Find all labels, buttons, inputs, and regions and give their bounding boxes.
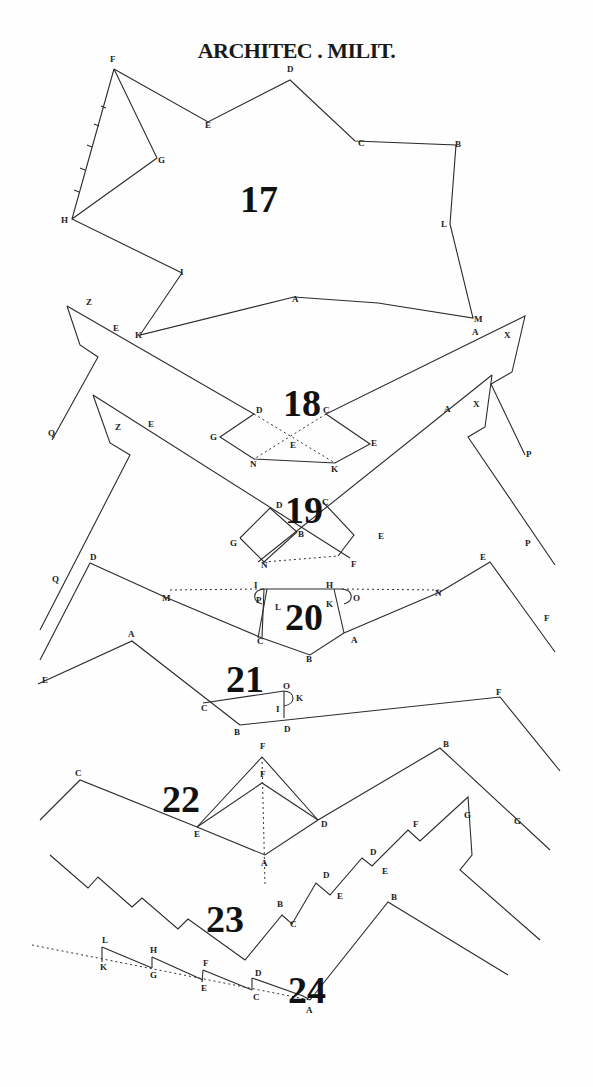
point-label: C: [201, 703, 208, 713]
outline-line: [72, 69, 157, 219]
point-label: H: [150, 945, 157, 955]
point-label: G: [514, 816, 521, 826]
point-label: I: [180, 267, 184, 277]
point-label: Q: [48, 428, 55, 438]
point-label: C: [290, 919, 297, 929]
point-label: G: [158, 155, 165, 165]
point-label: P: [525, 538, 531, 548]
point-label: N: [261, 560, 268, 570]
point-label: N: [250, 459, 257, 469]
point-label: D: [284, 724, 291, 734]
outline-line: [102, 947, 152, 968]
point-label: K: [296, 693, 303, 703]
point-label: D: [90, 552, 97, 562]
point-label: D: [276, 500, 283, 510]
point-label: K: [100, 962, 107, 972]
point-label: E: [378, 531, 384, 541]
outline-line: [310, 902, 508, 1000]
outline-line: [334, 589, 344, 633]
figure-number: 23: [206, 898, 244, 940]
point-label: I: [254, 580, 258, 590]
point-label: F: [544, 613, 550, 623]
outline-line: [52, 306, 98, 440]
figure-number: 24: [288, 969, 326, 1011]
construction-line: [342, 589, 440, 590]
fortification-diagrams: FDECBGLHIAKM17ZEDCGEENKAXQAXP18ZEDCGBENF…: [0, 0, 593, 1087]
outline-line: [240, 697, 560, 771]
engraved-plate: ARCHITEC . MILIT. FDECBGLHIAKM17ZEDCGEEN…: [0, 0, 593, 1087]
point-label: L: [275, 602, 281, 612]
point-label: E: [113, 323, 119, 333]
figure-number: 22: [162, 778, 200, 820]
point-label: A: [351, 635, 358, 645]
construction-line: [264, 556, 338, 562]
point-label: O: [283, 681, 290, 691]
point-label: Q: [52, 574, 59, 584]
point-label: B: [443, 739, 449, 749]
point-label: D: [323, 870, 330, 880]
point-label: P: [526, 449, 532, 459]
point-label: Z: [86, 297, 92, 307]
point-label: L: [441, 219, 447, 229]
point-label: F: [110, 54, 116, 64]
point-label: F: [351, 559, 357, 569]
point-label: X: [473, 399, 480, 409]
outline-line: [197, 783, 318, 827]
point-label: E: [148, 419, 154, 429]
point-label: K: [331, 464, 338, 474]
figure-20: DMIHPLKOCABNEFE20: [40, 552, 555, 685]
point-label: D: [287, 64, 294, 74]
point-label: H: [326, 580, 333, 590]
point-label: I: [276, 704, 280, 714]
outline-line: [50, 797, 540, 960]
outline-line: [40, 563, 90, 660]
outline-line: [40, 748, 550, 855]
outline-line: [152, 957, 203, 980]
outline-line: [323, 502, 354, 556]
point-label: G: [150, 970, 157, 980]
point-label: D: [321, 819, 328, 829]
point-label: O: [353, 593, 360, 603]
scale-ticks: [74, 106, 106, 192]
point-label: F: [203, 958, 209, 968]
point-label: F: [496, 687, 502, 697]
point-label: G: [230, 538, 237, 548]
point-label: K: [326, 599, 333, 609]
point-label: E: [337, 891, 343, 901]
point-label: L: [102, 935, 108, 945]
point-label: C: [75, 768, 82, 778]
point-label: E: [205, 120, 211, 130]
point-label: C: [257, 636, 264, 646]
point-label: G: [210, 432, 217, 442]
point-label: K: [135, 330, 142, 340]
construction-line: [32, 945, 310, 1000]
figure-number: 18: [283, 382, 321, 424]
point-label: D: [255, 968, 262, 978]
figure-number: 21: [226, 658, 264, 700]
figure-number: 20: [285, 596, 323, 638]
figure-21: ACOKIBDF21: [38, 629, 560, 771]
figure-17: FDECBGLHIAKM17: [61, 54, 483, 340]
point-label: B: [455, 139, 461, 149]
point-label: C: [323, 405, 330, 415]
point-label: F: [260, 769, 266, 779]
figure-22: CFFEDABG22: [40, 739, 550, 885]
point-label: A: [261, 858, 268, 868]
point-label: E: [371, 438, 377, 448]
point-label: E: [194, 829, 200, 839]
point-label: M: [474, 314, 483, 324]
point-label: E: [480, 552, 486, 562]
point-label: D: [256, 405, 263, 415]
point-label: C: [253, 992, 260, 1002]
figure-24: LKHGFEDCAB24: [32, 892, 508, 1015]
point-label: C: [358, 138, 365, 148]
figure-23: BCDEDEFG23: [50, 797, 540, 960]
point-label: E: [290, 440, 296, 450]
figure-number: 17: [240, 178, 278, 220]
point-label: B: [234, 727, 240, 737]
point-label: Z: [115, 422, 121, 432]
point-label: B: [306, 654, 312, 664]
point-label: G: [464, 810, 471, 820]
outline-line: [38, 641, 240, 725]
outline-line: [468, 375, 555, 565]
